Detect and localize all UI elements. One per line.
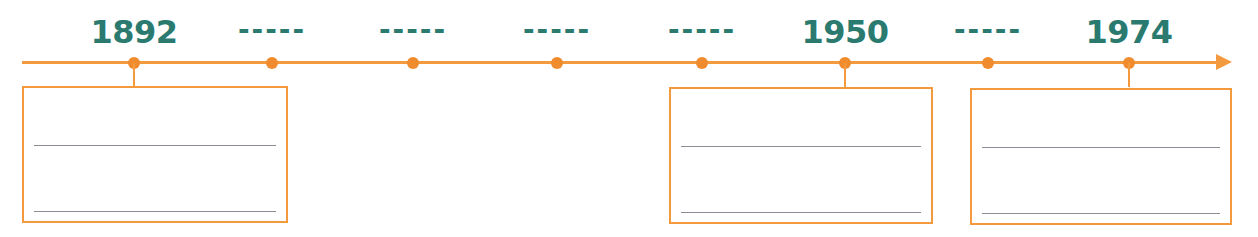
year-label-1892: 1892: [74, 12, 194, 52]
arrow-right-icon: [1216, 54, 1232, 70]
blank-year-label: -----: [928, 10, 1048, 50]
writing-line[interactable]: [681, 212, 921, 213]
timeline-dot: [696, 57, 708, 69]
timeline-dot: [982, 57, 994, 69]
writing-line[interactable]: [34, 211, 276, 212]
writing-line[interactable]: [34, 145, 276, 146]
connector-1974: [1128, 63, 1130, 87]
timeline-axis: [22, 61, 1218, 64]
year-label-1950: 1950: [785, 12, 905, 52]
answer-box-1974[interactable]: [970, 88, 1232, 225]
connector-1950: [844, 63, 846, 87]
answer-box-1950[interactable]: [669, 87, 933, 224]
year-label-1974: 1974: [1069, 12, 1189, 52]
writing-line[interactable]: [982, 147, 1220, 148]
connector-1892: [133, 63, 135, 87]
blank-year-label: -----: [497, 10, 617, 50]
timeline-dot: [407, 57, 419, 69]
writing-line[interactable]: [681, 146, 921, 147]
blank-year-label: -----: [353, 10, 473, 50]
writing-line[interactable]: [982, 213, 1220, 214]
answer-box-1892[interactable]: [22, 86, 288, 223]
blank-year-label: -----: [642, 10, 762, 50]
blank-year-label: -----: [212, 10, 332, 50]
timeline-dot: [266, 57, 278, 69]
timeline-dot: [551, 57, 563, 69]
